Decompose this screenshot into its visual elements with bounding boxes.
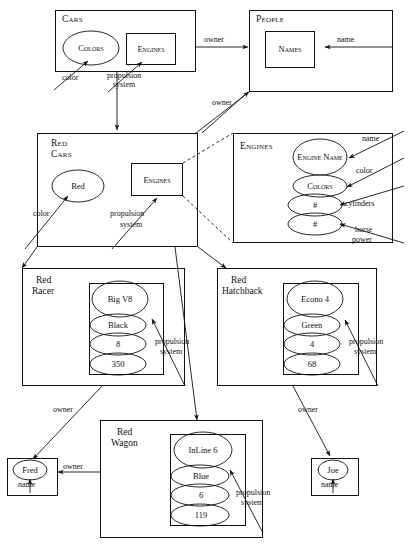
attr-label-red-wagon-propulsion-l1: propulsion (236, 489, 270, 497)
instance-title-red-wagon-line1: Red (117, 428, 132, 438)
instance-box-fred[interactable] (7, 458, 58, 496)
attr-label-engines-color: color (356, 167, 372, 175)
instance-title-red-wagon-line2: Wagon (111, 439, 138, 449)
class-title-cars: Cars (62, 15, 83, 25)
instance-title-red-hatchback-line2: Hatchback (222, 287, 263, 297)
diagram-canvas: Cars Colors Engines color propulsion sys… (0, 0, 413, 551)
attr-label-fred-name: name (18, 481, 35, 489)
class-title-people: People (256, 15, 284, 25)
attr-label-cars-propulsion-l2: system (113, 81, 135, 89)
instance-title-red-racer-line2: Racer (32, 287, 54, 297)
edge-label-owner-wagon-fred: owner (63, 463, 83, 471)
value-block-red-hatchback[interactable] (283, 283, 359, 375)
edge-label-owner-redcars-people: owner (212, 99, 232, 107)
attr-label-red-wagon-propulsion-l2: system (241, 499, 263, 507)
slot-box-red-cars-engines[interactable] (131, 163, 183, 196)
attr-label-engines-horsepower-l1: horse (355, 226, 372, 234)
value-block-red-wagon[interactable] (170, 434, 246, 526)
class-title-engines: Engines (240, 142, 273, 152)
attr-label-cars-color: color (62, 74, 78, 82)
edge-owner-hatchback-joe (293, 386, 330, 456)
attr-label-red-hatchback-propulsion-l2: system (354, 348, 376, 356)
attr-label-red-racer-propulsion-l1: propulsion (155, 338, 189, 346)
edge-owner-racer-fred (33, 385, 103, 459)
attr-label-red-cars-propulsion-l1: propulsion (110, 210, 144, 218)
instance-title-red-hatchback-line1: Red (231, 276, 246, 286)
slot-box-cars-engines[interactable] (126, 33, 176, 65)
edge-redcars-to-racer (22, 247, 37, 268)
instance-title-red-racer-line1: Red (36, 276, 51, 286)
class-title-red-cars-line1: Red (51, 139, 67, 149)
attr-label-red-hatchback-propulsion-l1: propulsion (349, 338, 383, 346)
attr-label-red-cars-propulsion-l2: system (120, 221, 142, 229)
attr-label-engines-horsepower-l2: power (352, 236, 372, 244)
slot-box-people-names[interactable] (265, 31, 315, 68)
attr-label-engines-name: name (362, 135, 379, 143)
class-title-red-cars-line2: Cars (51, 150, 72, 160)
attr-label-red-racer-propulsion-l2: system (160, 348, 182, 356)
instance-box-joe[interactable] (311, 458, 359, 496)
value-block-red-racer[interactable] (89, 283, 164, 375)
edge-label-owner-racer-fred: owner (53, 406, 73, 414)
edge-redcars-to-hatchback (198, 247, 226, 268)
edge-label-name-people: name (337, 36, 354, 44)
edge-label-owner-hatchback-joe: owner (298, 406, 318, 414)
edge-label-owner-cars-people: owner (204, 36, 224, 44)
attr-label-red-cars-color: color (33, 210, 49, 218)
attr-label-joe-name: name (321, 481, 338, 489)
attr-label-engines-cylinders: cylinders (345, 200, 374, 208)
